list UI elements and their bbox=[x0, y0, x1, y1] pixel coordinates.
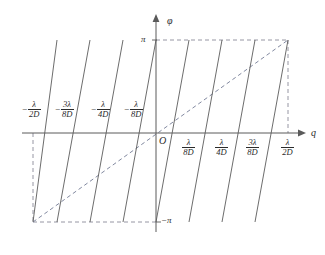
fraction-stack: λ 2D bbox=[281, 138, 294, 157]
fraction-denominator: 8D bbox=[61, 110, 73, 119]
fraction-stack: λ 4D bbox=[215, 138, 228, 157]
fraction-stack: λ 8D bbox=[130, 100, 143, 119]
fraction-numerator: 3λ bbox=[62, 100, 72, 109]
sawtooth-segment bbox=[33, 40, 57, 222]
origin-label: O bbox=[159, 136, 166, 146]
y-tick-label-pi: π bbox=[141, 35, 146, 44]
fraction-stack: 3λ 8D bbox=[61, 100, 74, 119]
sawtooth-segment bbox=[57, 40, 90, 222]
x-axis-arrow bbox=[298, 130, 306, 137]
x-tick-label-pos-1: λ 8D bbox=[182, 138, 195, 157]
x-tick-label-pos-3: 3λ 8D bbox=[246, 138, 259, 157]
fraction-sign: − bbox=[91, 104, 96, 114]
fraction-numerator: λ bbox=[100, 100, 106, 109]
phase-wrapping-chart: φ q O π −π − λ 2D − 3λ 8D − λ 4D − bbox=[0, 0, 325, 255]
fraction-denominator: 2D bbox=[28, 110, 40, 119]
sawtooth-segment bbox=[90, 40, 123, 222]
fraction-numerator: 3λ bbox=[248, 138, 258, 147]
fraction-denominator: 4D bbox=[215, 148, 227, 157]
y-axis-label: φ bbox=[167, 16, 173, 26]
fraction-sign: − bbox=[22, 104, 27, 114]
fraction-sign: − bbox=[124, 104, 129, 114]
fraction-numerator: λ bbox=[133, 100, 139, 109]
fraction-numerator: λ bbox=[219, 138, 225, 147]
sawtooth-segment bbox=[222, 40, 255, 222]
y-axis-arrow bbox=[153, 14, 160, 22]
x-tick-label-pos-4: λ 2D bbox=[281, 138, 294, 157]
fraction-denominator: 8D bbox=[246, 148, 258, 157]
sawtooth-segment bbox=[123, 40, 156, 222]
fraction-numerator: λ bbox=[31, 100, 37, 109]
x-tick-label-neg-1: − λ 8D bbox=[124, 100, 143, 119]
fraction-stack: 3λ 8D bbox=[246, 138, 259, 157]
sawtooth-segment bbox=[189, 40, 222, 222]
fraction-denominator: 8D bbox=[182, 148, 194, 157]
fraction-numerator: λ bbox=[186, 138, 192, 147]
y-tick-label-minus-pi: −π bbox=[161, 216, 172, 225]
x-tick-label-neg-2: − λ 4D bbox=[91, 100, 110, 119]
fraction-stack: λ 4D bbox=[97, 100, 110, 119]
fraction-stack: λ 2D bbox=[28, 100, 41, 119]
sawtooth-segment bbox=[255, 40, 288, 222]
fraction-denominator: 2D bbox=[281, 148, 293, 157]
fraction-numerator: λ bbox=[285, 138, 291, 147]
fraction-denominator: 4D bbox=[97, 110, 109, 119]
fraction-stack: λ 8D bbox=[182, 138, 195, 157]
x-tick-label-neg-4: − λ 2D bbox=[22, 100, 41, 119]
x-tick-label-neg-3: − 3λ 8D bbox=[55, 100, 74, 119]
fraction-sign: − bbox=[55, 104, 60, 114]
x-axis-label: q bbox=[311, 128, 316, 138]
x-tick-label-pos-2: λ 4D bbox=[215, 138, 228, 157]
fraction-denominator: 8D bbox=[130, 110, 142, 119]
